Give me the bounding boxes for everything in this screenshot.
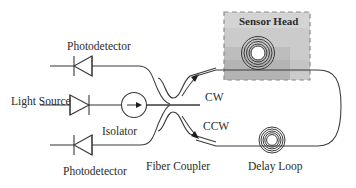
sensing-fiber-coil [242, 37, 275, 70]
label-fiber-coupler: Fiber Coupler [146, 161, 210, 173]
label-sensor-head: Sensor Head [239, 16, 298, 27]
isolator-symbol [122, 93, 147, 118]
sagnac-loop-path [196, 70, 341, 146]
label-light-source: Light Source [11, 96, 71, 108]
cw-arrow [182, 74, 199, 96]
label-ccw: CCW [203, 121, 229, 133]
fiber-optic-gyroscope-diagram: .ln { fill: none; stroke: #3a3a3a; strok… [0, 0, 356, 188]
label-photodetector-bottom: Photodetector [63, 166, 127, 178]
delay-loop-coil [259, 127, 285, 153]
light-source-symbol [70, 95, 104, 115]
photodetector-top-symbol [50, 56, 92, 76]
label-photodetector-top: Photodetector [67, 41, 131, 53]
label-delay-loop: Delay Loop [248, 161, 303, 173]
label-isolator: Isolator [102, 126, 137, 138]
photodetector-bottom-symbol [50, 135, 92, 155]
label-cw: CW [205, 92, 224, 104]
